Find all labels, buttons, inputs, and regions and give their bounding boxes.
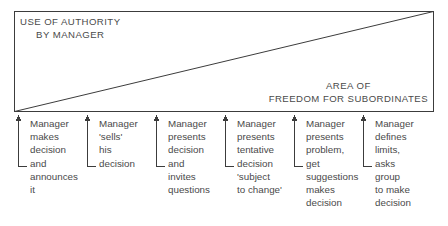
column-2-line-3: his xyxy=(99,143,138,156)
column-3-line-5: invites xyxy=(168,170,210,183)
column-5-line-3: problem, xyxy=(306,143,358,156)
column-6-line-3: limits, xyxy=(375,143,414,156)
arrow-up-elbow-icon-4-head xyxy=(223,115,229,122)
column-5-line-2: presents xyxy=(306,130,358,143)
behaviour-column-3: Managerpresentsdecisionandinvitesquestio… xyxy=(168,117,210,196)
column-5-line-6: makes xyxy=(306,183,358,196)
column-1-line-3: decision xyxy=(30,143,78,156)
authority-label-line1: USE OF AUTHORITY xyxy=(20,15,120,28)
arrow-up-elbow-icon-5-head xyxy=(292,115,298,122)
freedom-label-line2: FREEDOM FOR SUBORDINATES xyxy=(269,92,428,105)
columns-layer: Managermakesdecisionandannouncesit Manag… xyxy=(0,112,448,226)
behaviour-column-6: Managerdefineslimits,asksgroupto makedec… xyxy=(375,117,414,209)
column-5-line-7: decision xyxy=(306,196,358,209)
column-3-line-1: Manager xyxy=(168,117,210,130)
column-3-line-4: and xyxy=(168,157,210,170)
behaviour-column-5: Managerpresentsproblem,getsuggestionsmak… xyxy=(306,117,358,209)
diagram-canvas: USE OF AUTHORITY BY MANAGER AREA OF FREE… xyxy=(0,0,448,226)
column-2-line-1: Manager xyxy=(99,117,138,130)
area-of-freedom-label: AREA OF FREEDOM FOR SUBORDINATES xyxy=(269,79,428,105)
column-1-line-2: makes xyxy=(30,130,78,143)
column-5-line-4: get xyxy=(306,157,358,170)
arrow-up-elbow-icon-3-head xyxy=(154,115,160,122)
authority-label-line2: BY MANAGER xyxy=(20,28,120,41)
behaviour-column-4: Managerpresentstentativedecision'subject… xyxy=(237,117,282,196)
column-6-line-5: group xyxy=(375,170,414,183)
arrow-up-elbow-icon-1-head xyxy=(16,115,22,122)
arrow-up-elbow-icon-6-head xyxy=(361,115,367,122)
column-1-line-5: announces xyxy=(30,170,78,183)
column-6-line-6: to make xyxy=(375,183,414,196)
column-5-line-1: Manager xyxy=(306,117,358,130)
behaviour-column-1: Managermakesdecisionandannouncesit xyxy=(30,117,78,196)
column-4-line-5: 'subject xyxy=(237,170,282,183)
column-2-line-4: decision xyxy=(99,157,138,170)
column-1-line-1: Manager xyxy=(30,117,78,130)
column-1-line-6: it xyxy=(30,183,78,196)
column-4-line-2: presents xyxy=(237,130,282,143)
column-6-line-7: decision xyxy=(375,196,414,209)
freedom-label-line1: AREA OF xyxy=(269,79,428,92)
arrow-up-elbow-icon-2-head xyxy=(85,115,91,122)
column-1-line-4: and xyxy=(30,157,78,170)
column-5-line-5: suggestions xyxy=(306,170,358,183)
column-6-line-2: defines xyxy=(375,130,414,143)
column-3-line-2: presents xyxy=(168,130,210,143)
column-6-line-1: Manager xyxy=(375,117,414,130)
column-4-line-1: Manager xyxy=(237,117,282,130)
use-of-authority-label: USE OF AUTHORITY BY MANAGER xyxy=(20,15,120,41)
behaviour-column-2: Manager'sells'hisdecision xyxy=(99,117,138,170)
column-4-line-6: to change' xyxy=(237,183,282,196)
column-4-line-4: decision xyxy=(237,157,282,170)
column-6-line-4: asks xyxy=(375,157,414,170)
column-4-line-3: tentative xyxy=(237,143,282,156)
column-3-line-6: questions xyxy=(168,183,210,196)
column-2-line-2: 'sells' xyxy=(99,130,138,143)
column-3-line-3: decision xyxy=(168,143,210,156)
